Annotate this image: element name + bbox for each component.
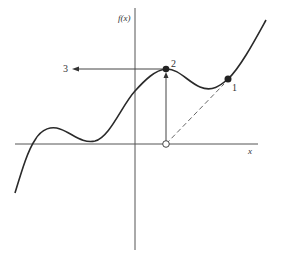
x-axis-label: x [247,146,252,156]
point-2-marker [163,66,170,73]
point-2-label: 2 [171,58,176,69]
open-circle-marker [163,141,170,148]
dashed-projection-line [166,84,224,144]
point-1-label: 1 [232,82,237,93]
point-3-label: 3 [63,63,68,74]
function-curve [15,20,266,193]
up-arrowhead-icon [164,72,169,78]
y-axis-label: f(x) [118,13,131,23]
function-iteration-diagram: f(x) x 2 1 3 [0,0,281,263]
left-arrowhead-icon [72,67,79,72]
point-1-marker [225,76,232,83]
